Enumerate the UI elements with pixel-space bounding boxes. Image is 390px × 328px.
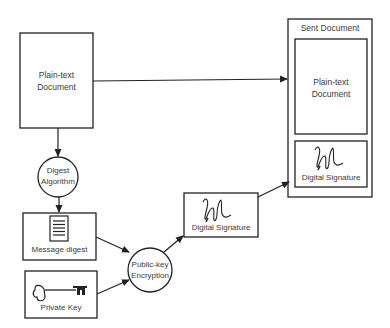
sent-document-title: Sent Document: [288, 22, 372, 34]
digest-algorithm-label: Digest Algorithm: [38, 165, 78, 187]
diagram-canvas: [0, 0, 390, 328]
sent-signature-label: Digital Signature: [295, 172, 367, 184]
edge-signature-to-sent: [258, 182, 289, 197]
plaintext-source-label: Plain-text Document: [20, 69, 93, 93]
public-key-encryption-label: Public-key Encryption: [126, 259, 174, 281]
edge-plaintext-to-sent: [93, 79, 287, 81]
message-digest-label: Message digest: [23, 244, 96, 256]
document-lines-icon: [50, 216, 68, 241]
edge-private-key-to-encryption: [97, 280, 129, 294]
sent-plaintext-label: Plain-text Document: [295, 76, 367, 100]
edge-message-digest-to-encryption: [96, 237, 129, 252]
private-key-label: Private Key: [25, 302, 97, 314]
digital-signature-label: Digital Signature: [184, 222, 258, 234]
edge-encryption-to-signature: [164, 236, 183, 252]
